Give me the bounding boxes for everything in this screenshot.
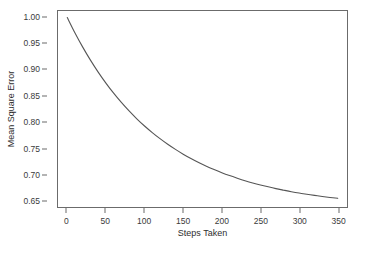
x-tick-label: 300 <box>293 217 307 226</box>
y-tick-mark <box>42 69 47 70</box>
chart-figure: Mean Square Error 0.650.700.750.800.850.… <box>0 0 366 255</box>
y-tick-mark <box>42 122 47 123</box>
x-tick-mark <box>260 208 261 213</box>
x-tick-label: 100 <box>137 217 151 226</box>
x-tick-mark <box>299 208 300 213</box>
y-tick-label: 1.00 <box>23 12 40 21</box>
x-tick-mark <box>183 208 184 213</box>
x-tick-label: 50 <box>101 217 110 226</box>
x-tick-label: 250 <box>254 217 268 226</box>
line-series-svg <box>58 11 347 207</box>
y-tick-label: 0.75 <box>23 144 40 153</box>
y-tick-mark <box>42 175 47 176</box>
x-tick-label: 200 <box>215 217 229 226</box>
y-tick-label: 0.70 <box>23 171 40 180</box>
x-tick-mark <box>66 208 67 213</box>
x-axis-title: Steps Taken <box>57 228 348 238</box>
x-tick-mark <box>105 208 106 213</box>
y-tick-mark <box>42 16 47 17</box>
y-tick-label: 0.65 <box>23 197 40 206</box>
y-tick-label: 0.80 <box>23 118 40 127</box>
y-tick-mark <box>42 201 47 202</box>
x-tick-mark <box>221 208 222 213</box>
x-tick-label: 150 <box>176 217 190 226</box>
x-tick-mark <box>338 208 339 213</box>
y-tick-label: 0.85 <box>23 92 40 101</box>
plot-area <box>57 10 348 208</box>
line-series-mean-square-error <box>67 18 337 199</box>
y-tick-mark <box>42 95 47 96</box>
y-tick-mark <box>42 43 47 44</box>
x-tick-label: 350 <box>332 217 346 226</box>
y-axis-ticks: 0.650.700.750.800.850.900.951.00 <box>0 10 50 208</box>
y-tick-label: 0.95 <box>23 39 40 48</box>
x-tick-mark <box>144 208 145 213</box>
x-tick-label: 0 <box>64 217 69 226</box>
y-tick-label: 0.90 <box>23 65 40 74</box>
y-tick-mark <box>42 148 47 149</box>
